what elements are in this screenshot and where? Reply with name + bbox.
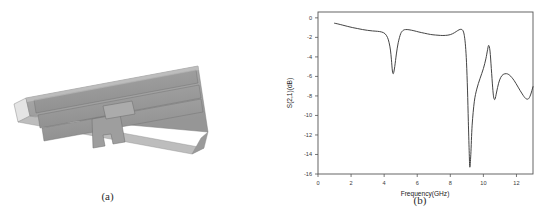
y-tick-label: 0 — [309, 15, 312, 21]
x-tick-label: 0 — [316, 180, 319, 186]
resonator-u-shape — [92, 114, 125, 148]
y-tick-label: -12 — [304, 132, 312, 138]
substrate-right-face — [192, 132, 208, 154]
y-tick-label: -6 — [307, 73, 312, 79]
s21-transmission-chart: 0-2-4-6-8-10-12-14-16 024681012 Frequenc… — [230, 0, 550, 221]
y-tick-label: -16 — [304, 171, 312, 177]
y-tick-label: -4 — [307, 54, 312, 60]
caption-b: (b) — [390, 194, 450, 206]
microstrip-structure-render — [8, 42, 212, 184]
figure-container: (a) 0-2-4-6-8-10-12-14-16 024681012 Freq… — [0, 0, 550, 221]
y-tick-label: -14 — [304, 151, 312, 157]
x-tick-label: 4 — [383, 180, 386, 186]
caption-a: (a) — [0, 190, 215, 202]
x-tick-label: 2 — [350, 180, 353, 186]
x-axis-ticks: 024681012 — [316, 174, 519, 186]
x-tick-label: 6 — [416, 180, 419, 186]
x-tick-label: 10 — [480, 180, 486, 186]
panel-b: 0-2-4-6-8-10-12-14-16 024681012 Frequenc… — [230, 0, 550, 221]
y-tick-label: -10 — [304, 112, 312, 118]
x-tick-label: 12 — [513, 180, 519, 186]
y-axis-title: S(2,1)(dB) — [286, 78, 294, 108]
panel-a: (a) — [0, 0, 230, 221]
plot-frame — [318, 12, 533, 174]
x-tick-label: 8 — [449, 180, 452, 186]
y-tick-label: -8 — [307, 93, 312, 99]
y-tick-label: -2 — [307, 34, 312, 40]
y-axis-ticks: 0-2-4-6-8-10-12-14-16 — [304, 15, 318, 177]
